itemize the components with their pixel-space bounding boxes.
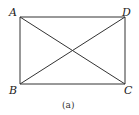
figure-caption: (a)	[62, 100, 74, 110]
label-a: A	[8, 6, 17, 19]
rectangle-diagram: A D B C (a)	[0, 0, 139, 115]
label-b: B	[8, 84, 17, 97]
label-d: D	[121, 6, 131, 19]
label-c: C	[124, 84, 133, 97]
